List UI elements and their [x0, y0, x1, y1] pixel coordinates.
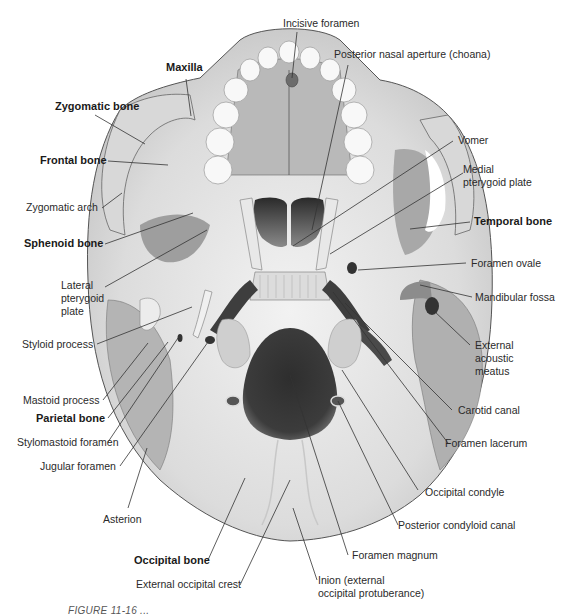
label-line: pterygoid plate: [463, 176, 532, 189]
label-zygomatic-bone: Zygomatic bone: [55, 100, 139, 113]
figure-caption: FIGURE 11-16 ...: [68, 605, 149, 614]
label-line: pterygoid: [61, 292, 104, 305]
stylomastoid-foramen-hole: [178, 334, 183, 342]
left-condyloid-canal: [226, 396, 240, 406]
label-posterior-nasal-aperture: Posterior nasal aperture (choana): [334, 48, 490, 61]
skull-inferior-diagram: Incisive foramen Posterior nasal apertur…: [0, 0, 568, 614]
label-carotid-canal: Carotid canal: [458, 404, 520, 417]
label-line: occipital protuberance): [318, 587, 424, 600]
label-line: Lateral: [61, 279, 104, 292]
label-line: Medial: [463, 163, 532, 176]
label-incisive-foramen: Incisive foramen: [283, 17, 359, 30]
label-styloid-process: Styloid process: [22, 338, 93, 351]
label-external-acoustic-meatus: External acoustic meatus: [475, 339, 514, 378]
label-line: meatus: [475, 365, 514, 378]
label-temporal-bone: Temporal bone: [474, 215, 552, 228]
label-foramen-lacerum: Foramen lacerum: [445, 437, 527, 450]
label-posterior-condyloid-canal: Posterior condyloid canal: [398, 519, 515, 532]
label-occipital-bone: Occipital bone: [134, 554, 210, 567]
label-line: Inion (external: [318, 574, 424, 587]
label-medial-pterygoid-plate: Medial pterygoid plate: [463, 163, 532, 189]
label-sphenoid-bone: Sphenoid bone: [24, 237, 103, 250]
label-parietal-bone: Parietal bone: [36, 412, 105, 425]
basilar-part: [250, 272, 330, 300]
label-maxilla: Maxilla: [166, 61, 203, 74]
label-mandibular-fossa: Mandibular fossa: [475, 291, 555, 304]
label-line: External: [475, 339, 514, 352]
label-asterion: Asterion: [103, 513, 142, 526]
jugular-foramen-hole: [205, 336, 215, 344]
label-foramen-magnum: Foramen magnum: [352, 549, 438, 562]
external-acoustic-meatus-hole: [425, 297, 439, 315]
label-external-occipital-crest: External occipital crest: [136, 578, 241, 591]
label-occipital-condyle: Occipital condyle: [425, 486, 504, 499]
label-vomer: Vomer: [458, 134, 488, 147]
label-foramen-ovale: Foramen ovale: [471, 257, 541, 270]
label-mastoid-process: Mastoid process: [23, 394, 99, 407]
label-inion: Inion (external occipital protuberance): [318, 574, 424, 600]
foramen-ovale-hole: [347, 262, 357, 274]
label-lateral-pterygoid-plate: Lateral pterygoid plate: [61, 279, 104, 318]
label-line: plate: [61, 305, 104, 318]
label-line: acoustic: [475, 352, 514, 365]
label-jugular-foramen: Jugular foramen: [40, 460, 116, 473]
label-stylomastoid-foramen: Stylomastoid foramen: [17, 436, 119, 449]
label-zygomatic-arch: Zygomatic arch: [26, 201, 98, 214]
label-frontal-bone: Frontal bone: [40, 154, 107, 167]
